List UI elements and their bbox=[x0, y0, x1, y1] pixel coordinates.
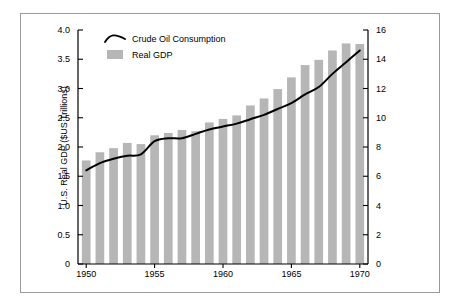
legend-label: Crude Oil Consumption bbox=[132, 34, 226, 44]
y2-axis-tick-label: 2 bbox=[376, 230, 381, 240]
y2-axis-tick-label: 0 bbox=[376, 259, 381, 269]
bar bbox=[191, 131, 200, 264]
bar bbox=[219, 119, 228, 264]
bar bbox=[178, 130, 187, 264]
bar bbox=[205, 122, 214, 264]
bar bbox=[232, 115, 241, 264]
legend-swatch bbox=[107, 50, 123, 59]
y2-axis-tick-label: 16 bbox=[376, 25, 386, 35]
legend-item: Real GDP bbox=[104, 48, 226, 61]
bar bbox=[314, 60, 323, 264]
y-axis-title: U.S. Real GDP ($US Trillions) bbox=[59, 56, 69, 236]
bar bbox=[123, 143, 132, 264]
bar bbox=[260, 98, 269, 264]
legend-line-icon bbox=[104, 33, 126, 44]
y2-axis-tick-label: 4 bbox=[376, 201, 381, 211]
bar bbox=[355, 44, 364, 264]
y2-axis-tick-label: 12 bbox=[376, 84, 386, 94]
bar-series bbox=[82, 43, 364, 264]
y2-axis-tick-label: 14 bbox=[376, 54, 386, 64]
bar bbox=[109, 148, 118, 264]
bar bbox=[164, 133, 173, 264]
y-axis-tick-label: 0 bbox=[0, 259, 70, 269]
x-axis-tick-label: 1955 bbox=[145, 269, 165, 279]
y2-axis-tick-label: 8 bbox=[376, 142, 381, 152]
legend-item: Crude Oil Consumption bbox=[104, 32, 226, 45]
x-axis-tick-label: 1950 bbox=[76, 269, 96, 279]
bar bbox=[328, 50, 337, 264]
bar bbox=[273, 89, 282, 264]
bar bbox=[246, 105, 255, 264]
legend-label: Real GDP bbox=[132, 50, 173, 60]
y2-axis-tick-label: 6 bbox=[376, 171, 381, 181]
chart-legend: Crude Oil ConsumptionReal GDP bbox=[104, 32, 226, 64]
x-axis-tick-label: 1965 bbox=[281, 269, 301, 279]
x-axis-tick-label: 1960 bbox=[213, 269, 233, 279]
chart-canvas: 00.51.01.52.02.53.03.54.0024681012141619… bbox=[0, 0, 459, 308]
y2-axis-tick-label: 10 bbox=[376, 113, 386, 123]
bar bbox=[150, 135, 159, 264]
x-axis-tick-label: 1970 bbox=[350, 269, 370, 279]
legend-swatch-icon bbox=[104, 49, 126, 60]
bar bbox=[96, 152, 105, 264]
bar bbox=[82, 160, 91, 264]
y-axis-tick-label: 4.0 bbox=[0, 25, 70, 35]
bar bbox=[137, 144, 146, 264]
bar bbox=[342, 43, 351, 264]
